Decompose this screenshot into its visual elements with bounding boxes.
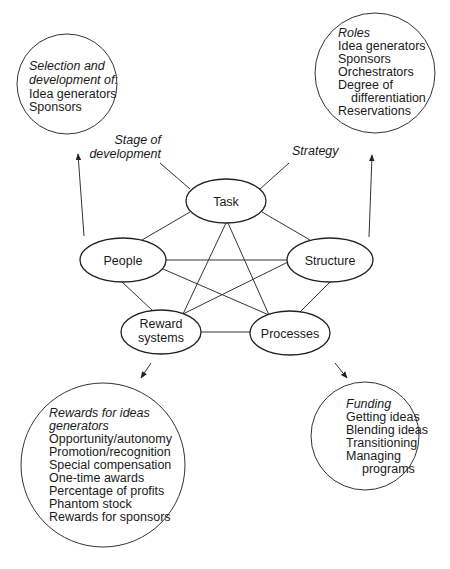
node-processes: Processes bbox=[250, 311, 330, 355]
arrow-down-right-icon bbox=[335, 363, 347, 378]
people-detail-circle: Selection and development of: Idea gener… bbox=[17, 34, 118, 134]
star-model-diagram: Task People Structure Reward systems Pro… bbox=[0, 0, 450, 569]
svg-text:Blending ideas: Blending ideas bbox=[346, 423, 428, 437]
svg-text:Funding: Funding bbox=[346, 397, 391, 411]
node-reward-systems: Reward systems bbox=[121, 310, 201, 354]
arrow-down-left-icon bbox=[141, 363, 151, 378]
svg-text:Strategy: Strategy bbox=[292, 144, 339, 158]
svg-text:People: People bbox=[104, 254, 143, 268]
arrow-up-left-icon bbox=[78, 154, 84, 236]
processes-detail-circle: Funding Getting ideas Blending ideas Tra… bbox=[311, 382, 428, 490]
svg-text:Stage of: Stage of bbox=[114, 133, 162, 147]
svg-text:One-time awards: One-time awards bbox=[49, 471, 144, 485]
input-strategy: Strategy bbox=[292, 144, 339, 158]
svg-text:Degree of: Degree of bbox=[338, 78, 393, 92]
node-people: People bbox=[80, 238, 166, 282]
svg-text:development: development bbox=[89, 147, 161, 161]
svg-text:Rewards for ideas: Rewards for ideas bbox=[49, 406, 150, 420]
svg-text:Promotion/recognition: Promotion/recognition bbox=[49, 445, 171, 459]
svg-text:Task: Task bbox=[213, 195, 239, 209]
svg-text:Selection and: Selection and bbox=[29, 59, 106, 73]
svg-text:Roles: Roles bbox=[338, 26, 370, 40]
arrow-up-right-icon bbox=[369, 155, 372, 237]
svg-text:Idea generators: Idea generators bbox=[29, 87, 117, 101]
svg-text:Percentage of profits: Percentage of profits bbox=[49, 484, 164, 498]
svg-text:programs: programs bbox=[362, 462, 415, 476]
svg-text:Sponsors: Sponsors bbox=[29, 100, 82, 114]
svg-text:Orchestrators: Orchestrators bbox=[338, 65, 414, 79]
svg-text:Transitioning: Transitioning bbox=[346, 436, 417, 450]
svg-text:Sponsors: Sponsors bbox=[338, 52, 391, 66]
svg-text:Processes: Processes bbox=[261, 327, 319, 341]
svg-text:generators: generators bbox=[49, 419, 109, 433]
svg-text:Reservations: Reservations bbox=[338, 104, 411, 118]
svg-text:Managing: Managing bbox=[346, 449, 401, 463]
svg-text:Rewards for sponsors: Rewards for sponsors bbox=[49, 510, 171, 524]
svg-text:Phantom stock: Phantom stock bbox=[49, 497, 132, 511]
svg-text:Idea generators: Idea generators bbox=[338, 39, 426, 53]
node-task: Task bbox=[186, 179, 266, 223]
svg-text:Reward: Reward bbox=[139, 317, 182, 331]
node-structure: Structure bbox=[287, 238, 373, 282]
svg-text:differentiation: differentiation bbox=[351, 91, 426, 105]
svg-text:Getting ideas: Getting ideas bbox=[346, 410, 420, 424]
svg-text:Structure: Structure bbox=[305, 254, 356, 268]
input-stage-of-development: Stage of development bbox=[89, 133, 162, 161]
structure-detail-circle: Roles Idea generators Sponsors Orchestra… bbox=[315, 13, 435, 133]
svg-text:systems: systems bbox=[138, 331, 184, 345]
reward-detail-circle: Rewards for ideas generators Opportunity… bbox=[21, 383, 185, 547]
svg-text:development of:: development of: bbox=[29, 73, 118, 87]
svg-text:Opportunity/autonomy: Opportunity/autonomy bbox=[49, 432, 173, 446]
svg-text:Special compensation: Special compensation bbox=[49, 458, 171, 472]
